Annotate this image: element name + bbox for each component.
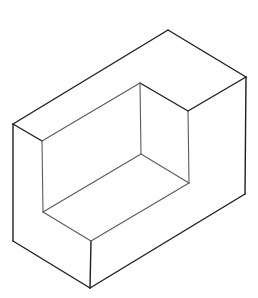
block-silhouette <box>13 30 246 288</box>
block-faces <box>13 30 246 288</box>
isometric-block-drawing <box>0 0 258 298</box>
outer-edge-step_front_floor-to-bottom_front <box>90 241 91 288</box>
outer-edge-right_top-to-right_bottom <box>245 77 246 194</box>
